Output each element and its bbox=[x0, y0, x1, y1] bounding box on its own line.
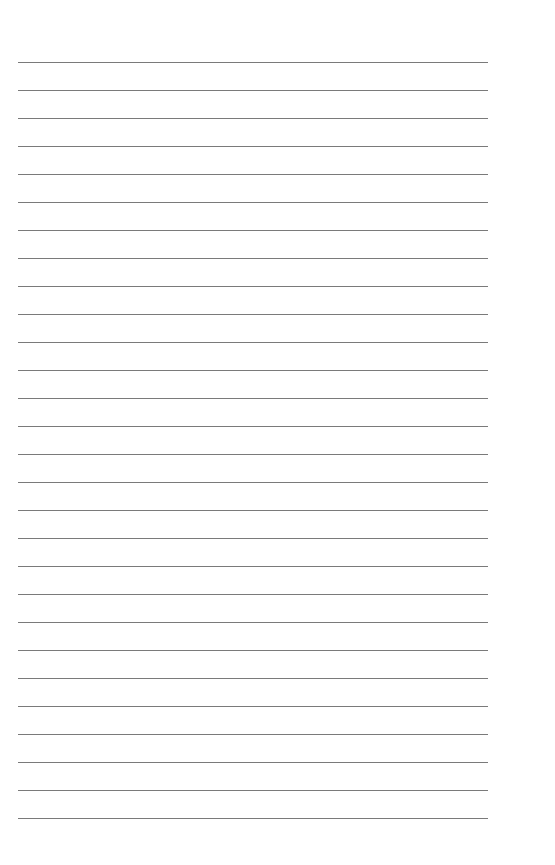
ruled-line bbox=[18, 482, 488, 483]
lined-paper-page bbox=[0, 0, 555, 865]
ruled-line bbox=[18, 594, 488, 595]
ruled-line bbox=[18, 230, 488, 231]
ruled-line bbox=[18, 202, 488, 203]
ruled-line bbox=[18, 566, 488, 567]
ruled-line bbox=[18, 286, 488, 287]
ruled-line bbox=[18, 426, 488, 427]
ruled-line bbox=[18, 790, 488, 791]
ruled-line bbox=[18, 258, 488, 259]
ruled-line bbox=[18, 314, 488, 315]
ruled-line bbox=[18, 90, 488, 91]
ruled-line bbox=[18, 622, 488, 623]
ruled-line bbox=[18, 342, 488, 343]
ruled-line bbox=[18, 650, 488, 651]
ruled-line bbox=[18, 370, 488, 371]
ruled-line bbox=[18, 118, 488, 119]
ruled-line bbox=[18, 734, 488, 735]
ruled-line bbox=[18, 538, 488, 539]
ruled-line bbox=[18, 398, 488, 399]
ruled-line bbox=[18, 762, 488, 763]
ruled-line bbox=[18, 818, 488, 819]
ruled-line bbox=[18, 510, 488, 511]
ruled-line bbox=[18, 454, 488, 455]
ruled-line bbox=[18, 146, 488, 147]
ruled-line bbox=[18, 706, 488, 707]
ruled-line bbox=[18, 62, 488, 63]
ruled-line bbox=[18, 678, 488, 679]
ruled-line bbox=[18, 174, 488, 175]
